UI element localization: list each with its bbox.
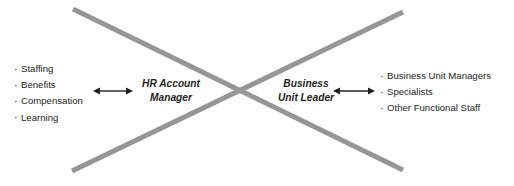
list-item-label: Learning — [21, 112, 58, 123]
list-item-label: Compensation — [21, 95, 83, 106]
diagram-canvas: Staffing Benefits Compensation Learning … — [0, 0, 514, 186]
list-item: Learning — [14, 110, 83, 126]
list-item: Benefits — [14, 77, 83, 93]
list-item: Other Functional Staff — [380, 100, 491, 116]
arrow-head-right — [368, 87, 375, 94]
list-item-label: Business Unit Managers — [387, 70, 491, 81]
hr-functions-list: Staffing Benefits Compensation Learning — [14, 61, 83, 126]
arrow-head-left — [333, 87, 340, 94]
hr-account-manager-label: HR Account Manager — [134, 77, 208, 104]
arrow-head-right — [126, 87, 133, 94]
list-item-label: Other Functional Staff — [387, 102, 480, 113]
list-item-label: Staffing — [21, 63, 53, 74]
hr-account-manager-line2: Manager — [134, 91, 208, 105]
hr-account-manager-line1: HR Account — [134, 77, 208, 91]
arrow-head-left — [93, 87, 100, 94]
left-double-arrow — [93, 84, 133, 98]
business-roles-list: Business Unit Managers Specialists Other… — [380, 68, 491, 117]
list-item: Specialists — [380, 84, 491, 100]
list-item: Compensation — [14, 93, 83, 109]
right-double-arrow — [333, 84, 375, 98]
list-item-label: Specialists — [387, 86, 433, 97]
list-item: Business Unit Managers — [380, 68, 491, 84]
list-item-label: Benefits — [21, 79, 56, 90]
list-item: Staffing — [14, 61, 83, 77]
